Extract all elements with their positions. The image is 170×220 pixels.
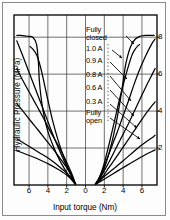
y-tick-label: 4 <box>158 106 168 115</box>
annotation-0-3-a: 0.3 A <box>86 98 102 106</box>
x-tick-label: 6 <box>22 186 36 195</box>
x-tick-label: 4 <box>41 186 55 195</box>
x-tick-label: 2 <box>97 186 111 195</box>
annotation-0-8-a: 0.8 A <box>86 71 102 79</box>
annotation-fully-open-line2: open <box>86 117 102 125</box>
y-tick-label: 2 <box>158 143 168 152</box>
annotation-fully-closed-line2: closed <box>86 34 107 42</box>
x-tick-label: 6 <box>135 186 149 195</box>
annotation-0-9-a: 0.9 A <box>86 57 102 65</box>
series-annotations: Fully closed 1.0 A 0.9 A 0.8 A 0.6 A 0.3… <box>86 26 126 142</box>
x-axis-title: Input torque (Nm) <box>0 203 170 212</box>
y-tick-label: 8 <box>158 32 168 41</box>
annotation-0-6-a: 0.6 A <box>86 84 102 92</box>
annotation-1-0-a: 1.0 A <box>86 45 102 53</box>
y-axis-title: Hydraulic Pressure (MPa) <box>13 57 22 153</box>
x-tick-label: 4 <box>116 186 130 195</box>
x-tick-label: 2 <box>60 186 74 195</box>
chart-figure: 6420246 2468 Fully closed 1.0 A 0.9 A 0.… <box>0 0 170 220</box>
x-tick-label: 0 <box>79 186 93 195</box>
y-tick-label: 6 <box>158 69 168 78</box>
